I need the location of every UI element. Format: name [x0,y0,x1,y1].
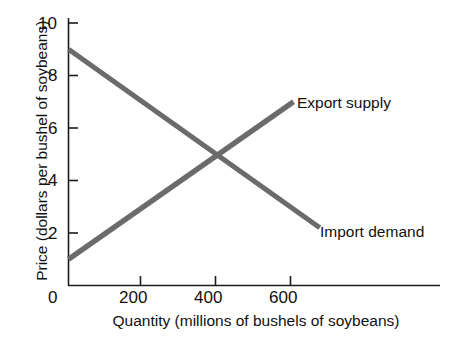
x-tick-label-400: 400 [194,289,222,306]
chart-plot-area [0,0,449,339]
series-label-import-demand: Import demand [320,224,424,240]
x-axis-title: Quantity (millions of bushels of soybean… [70,313,442,329]
x-tick-label-600: 600 [269,289,297,306]
chart-figure: 10 8 6 4 2 0 200 400 600 Price (dollars … [0,0,449,339]
origin-tick-label: 0 [48,289,57,306]
series-line-import-demand [69,49,320,228]
x-tick-label-200: 200 [119,289,147,306]
y-axis-title: Price (dollars per bushel of soybeans) [34,17,50,285]
series-label-export-supply: Export supply [297,95,391,111]
series-line-export-supply [69,102,294,260]
